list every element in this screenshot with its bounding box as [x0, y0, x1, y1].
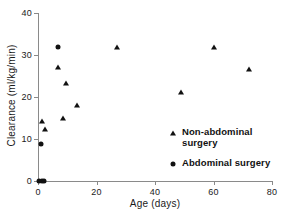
x-tick: [97, 181, 98, 185]
y-tick-label: 0: [12, 176, 32, 186]
y-tick: [34, 97, 38, 98]
data-point-circle: [38, 142, 43, 147]
data-point-triangle: [246, 66, 252, 71]
data-point-triangle: [178, 89, 184, 94]
data-point-circle: [56, 45, 61, 50]
x-tick: [272, 181, 273, 185]
x-axis-label: Age (days): [38, 198, 272, 209]
x-tick-label: 40: [150, 187, 160, 197]
y-axis-line: [38, 13, 39, 181]
y-tick-label: 20: [12, 92, 32, 102]
y-tick: [34, 13, 38, 14]
scatter-plot-figure: Clearance (ml/kg/min) 010203040 02040608…: [0, 0, 295, 222]
data-point-triangle: [39, 119, 45, 124]
x-tick: [214, 181, 215, 185]
legend-item-abdominal: Abdominal surgery: [168, 157, 292, 169]
x-tick-label: 80: [267, 187, 277, 197]
legend-item-non-abdominal: Non-abdominalsurgery: [168, 126, 292, 148]
data-point-triangle: [63, 80, 69, 85]
data-point-triangle: [74, 102, 80, 107]
triangle-marker-icon: [168, 126, 182, 138]
data-point-triangle: [55, 64, 61, 69]
legend-item-label: Non-abdominalsurgery: [182, 126, 252, 148]
x-tick-label: 20: [91, 187, 101, 197]
data-point-triangle: [42, 127, 48, 132]
data-point-circle: [42, 179, 47, 184]
x-tick-label: 0: [35, 187, 40, 197]
circle-marker-icon: [168, 157, 182, 169]
legend: Non-abdominalsurgery Abdominal surgery: [168, 126, 292, 178]
x-tick: [155, 181, 156, 185]
data-point-triangle: [114, 44, 120, 49]
y-tick-label: 10: [12, 134, 32, 144]
data-point-triangle: [211, 45, 217, 50]
y-tick-label: 40: [12, 8, 32, 18]
legend-item-label: Abdominal surgery: [182, 157, 270, 168]
x-tick-label: 60: [208, 187, 218, 197]
y-tick: [34, 139, 38, 140]
y-tick-label: 30: [12, 50, 32, 60]
y-tick: [34, 55, 38, 56]
data-point-triangle: [60, 116, 66, 121]
